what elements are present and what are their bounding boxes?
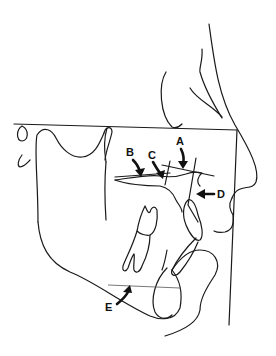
vertical-line-2	[188, 158, 198, 222]
arrow-E	[117, 285, 132, 304]
arrow-D	[196, 189, 214, 199]
nasal-line-2	[190, 88, 222, 117]
coronoid-inner	[105, 128, 107, 162]
lower-molar	[123, 231, 150, 272]
label-C: C	[148, 150, 156, 161]
reference-vertical-line	[229, 130, 237, 325]
label-E: E	[105, 302, 112, 313]
label-A: A	[176, 136, 184, 147]
posterior-mark	[18, 155, 30, 167]
mandible-anterior	[105, 162, 106, 220]
arrow-A	[178, 149, 188, 169]
lower-incisor	[172, 238, 198, 275]
cephalometric-tracing	[0, 0, 276, 356]
label-D: D	[217, 189, 225, 200]
palate-lower	[115, 180, 182, 212]
upper-molar	[137, 206, 157, 235]
label-B: B	[126, 147, 134, 158]
symphysis-outline	[153, 268, 181, 318]
sn-line	[162, 165, 214, 176]
condyle-outline	[18, 126, 28, 141]
mandibular-plane-line	[108, 285, 180, 288]
upper-incisor	[184, 200, 203, 241]
arrow-C	[153, 162, 165, 179]
orbit-curve	[161, 72, 182, 128]
chin-outline	[165, 250, 218, 336]
soft-tissue-lips	[214, 198, 233, 232]
anterior-symphysis-line	[162, 250, 167, 270]
ramus-outline	[36, 129, 104, 222]
